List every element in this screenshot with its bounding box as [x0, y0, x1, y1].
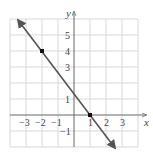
coordinate-plane: y x −3 −2 −1 1 2 3 5 4 3 1 −1 — [0, 0, 153, 153]
svg-text:4: 4 — [65, 46, 70, 57]
svg-text:2: 2 — [104, 117, 109, 128]
svg-text:3: 3 — [120, 117, 125, 128]
svg-text:5: 5 — [65, 30, 70, 41]
y-axis-label: y — [65, 7, 71, 19]
point-1-0 — [88, 113, 92, 117]
x-axis-label: x — [143, 116, 149, 128]
svg-text:3: 3 — [65, 62, 70, 73]
svg-text:−3: −3 — [19, 117, 30, 128]
point-neg2-4 — [40, 49, 44, 53]
svg-text:1: 1 — [65, 94, 70, 105]
x-tick-labels: −3 −2 −1 1 2 3 — [19, 117, 125, 128]
svg-text:−1: −1 — [60, 126, 71, 137]
svg-text:−2: −2 — [35, 117, 46, 128]
